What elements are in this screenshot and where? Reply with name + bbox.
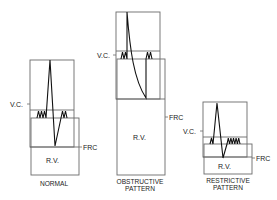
spirogram-trace [210, 103, 240, 158]
spirogram-trace [37, 60, 67, 146]
frc-box [31, 118, 79, 175]
lung-volume-diagram: V.C. FRC R.V. NORMAL V.C. FRC R.V. OBSTR… [0, 0, 277, 200]
panel-normal: V.C. FRC R.V. NORMAL [10, 60, 97, 187]
vc-box [203, 102, 247, 157]
frc-label: FRC [83, 144, 97, 151]
panel-restrictive: V.C. FRC R.V. RESTRICTIVE PATTERN [183, 102, 270, 191]
caption-normal: NORMAL [40, 180, 69, 187]
caption-obstructive-line2: PATTERN [125, 185, 155, 192]
caption-restrictive-line1: RESTRICTIVE [206, 177, 250, 184]
panel-obstructive: V.C. FRC R.V. OBSTRUCTIVE PATTERN [97, 12, 183, 192]
frc-box [117, 59, 165, 175]
rv-label: R.V. [218, 163, 231, 170]
vc-label: V.C. [10, 101, 23, 108]
frc-label: FRC [256, 155, 270, 162]
vc-box [116, 12, 160, 99]
caption-obstructive-line1: OBSTRUCTIVE [117, 178, 164, 185]
rv-label: R.V. [46, 157, 59, 164]
spirogram-trace [121, 12, 152, 98]
rv-label: R.V. [133, 134, 146, 141]
caption-restrictive-line2: PATTERN [213, 184, 243, 191]
vc-label: V.C. [183, 128, 196, 135]
frc-label: FRC [169, 114, 183, 121]
vc-label: V.C. [97, 52, 110, 59]
